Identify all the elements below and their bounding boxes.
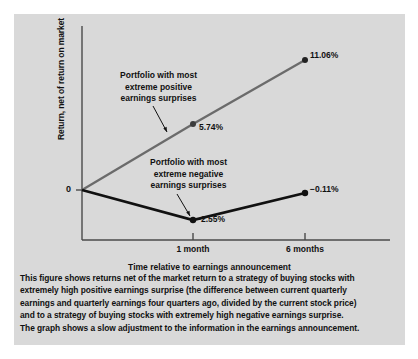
annotation-positive-line1: Portfolio with most [96, 70, 221, 82]
leader-arrow-negative [186, 211, 190, 216]
y-axis-title: Return, net of return on market [56, 4, 66, 154]
caption-line-2: extremely high positive earnings surpris… [20, 284, 399, 296]
figure-panel: Return, net of return on market 0 1 mont… [14, 14, 405, 345]
caption-line-3: earnings and quarterly earnings four qua… [20, 297, 399, 309]
data-point-positive-1month [190, 121, 196, 127]
leader-arrow-positive [163, 127, 167, 132]
caption-line-5: The graph shows a slow adjustment to the… [20, 322, 399, 334]
annotation-positive-line2: extreme positive [96, 82, 221, 94]
annotation-negative-line3: earnings surprises [126, 180, 251, 192]
annotation-negative-line1: Portfolio with most [126, 157, 251, 169]
chart-plot-area: Return, net of return on market 0 1 mont… [14, 14, 405, 254]
data-label-negative-6months: −0.11% [310, 184, 339, 194]
x-axis-title: Time relative to earnings announcement [14, 262, 405, 272]
data-label-positive-6months: 11.06% [310, 50, 338, 60]
caption-line-4: and to a strategy of buying stocks with … [20, 309, 399, 321]
annotation-negative-line2: extreme negative [126, 169, 251, 181]
annotation-positive-portfolio: Portfolio with most extreme positive ear… [96, 70, 221, 105]
y-axis-zero-label: 0 [66, 184, 71, 194]
data-label-negative-1month: −2.55% [196, 214, 225, 224]
annotation-negative-portfolio: Portfolio with most extreme negative ear… [126, 157, 251, 192]
data-label-positive-1month: 5.74% [199, 122, 223, 132]
annotation-positive-line3: earnings surprises [96, 93, 221, 105]
caption-line-1: This figure shows returns net of the mar… [20, 272, 399, 284]
x-axis-label-6months: 6 months [270, 244, 340, 254]
data-point-positive-6months [302, 57, 308, 63]
series-line-negative [82, 190, 305, 220]
data-point-negative-6months [302, 190, 308, 196]
figure-caption: This figure shows returns net of the mar… [20, 272, 399, 334]
x-axis-label-1month: 1 month [158, 244, 228, 254]
